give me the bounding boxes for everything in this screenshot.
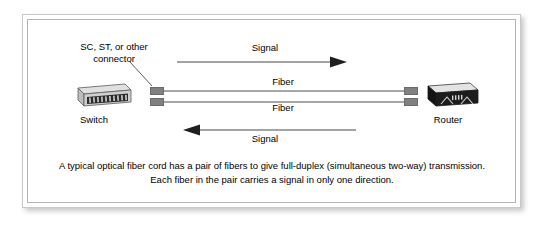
router-label: Router <box>415 114 481 126</box>
connector-callout-line2: connector <box>93 53 135 64</box>
router-front-face <box>436 90 478 106</box>
figure-root: SC, ST, or other connector Switch Router… <box>0 0 547 226</box>
network-switch-icon <box>78 84 131 106</box>
caption-line-1: A typical optical fiber cord has a pair … <box>36 159 508 173</box>
connector-callout-line1: SC, ST, or other <box>80 41 148 52</box>
connector-leader-line <box>130 62 152 86</box>
connector-switch-top <box>150 87 164 95</box>
signal-label-top: Signal <box>230 42 300 54</box>
network-router-icon <box>428 83 478 106</box>
fiber-strand-top <box>163 90 408 92</box>
caption-line-2: Each fiber in the pair carries a signal … <box>36 173 508 187</box>
connector-callout-label: SC, ST, or other connector <box>58 41 170 65</box>
signal-label-bottom: Signal <box>230 133 300 145</box>
connector-router-top <box>404 87 418 95</box>
figure-caption: A typical optical fiber cord has a pair … <box>36 159 508 187</box>
fiber-label-bottom: Fiber <box>248 102 318 114</box>
fiber-label-top: Fiber <box>248 76 318 88</box>
signal-arrow-top-head <box>330 57 347 68</box>
signal-arrow-top <box>177 57 347 68</box>
connector-switch-bottom <box>150 98 164 106</box>
switch-label: Switch <box>61 114 127 126</box>
connector-router-bottom <box>404 98 418 106</box>
signal-arrow-bottom-head <box>183 125 200 136</box>
